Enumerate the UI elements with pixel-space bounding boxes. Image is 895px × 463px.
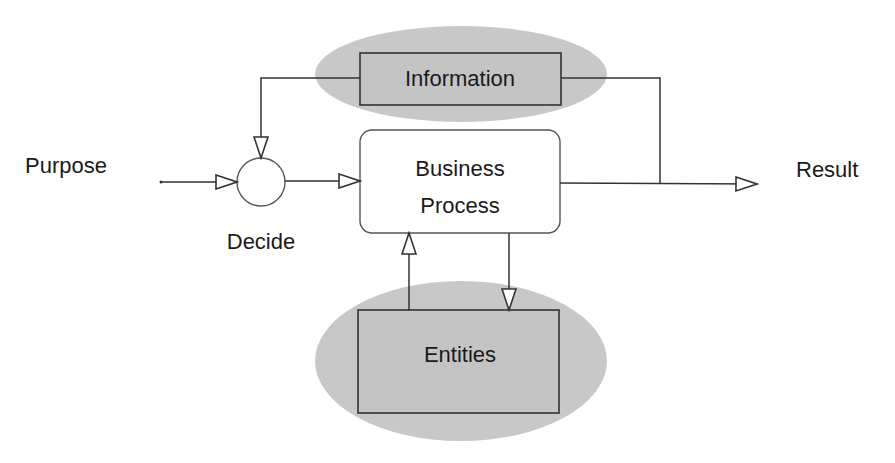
entities-label: Entities — [424, 342, 496, 367]
business-process-diagram: Information Entities Business Process Pu… — [0, 0, 895, 463]
decide-node — [237, 158, 285, 206]
information-node: Information — [315, 26, 607, 122]
decide-label: Decide — [227, 229, 295, 254]
purpose-label: Purpose — [25, 153, 107, 178]
entities-node: Entities — [315, 281, 607, 441]
information-label: Information — [405, 66, 515, 91]
purpose-line-start-dot — [160, 181, 163, 184]
business-process-label-line2: Process — [420, 193, 499, 218]
process-to-result-arrow — [560, 183, 757, 184]
business-process-label-line1: Business — [415, 156, 504, 181]
result-label: Result — [796, 157, 858, 182]
business-process-node: Business Process — [360, 130, 560, 233]
